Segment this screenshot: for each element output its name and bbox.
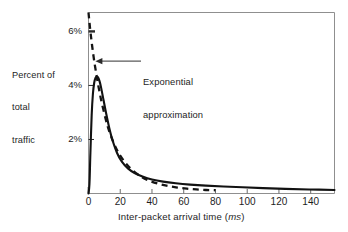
annotation-leader <box>95 58 141 64</box>
annotation-exponential-approximation: Exponential approximation <box>143 54 203 143</box>
figure-panel: Percent of total traffic 6% 4% 2% 020406… <box>0 0 348 232</box>
x-axis-label: Inter-packet arrival time (ms) <box>118 211 245 222</box>
x-tick-label-60: 60 <box>171 196 197 208</box>
series-measured-traffic <box>89 77 335 194</box>
x-tick-label-0: 0 <box>76 196 102 208</box>
y-axis-label: Percent of total traffic <box>12 48 86 167</box>
annotation-line-2: approximation <box>143 109 203 120</box>
x-tick-label-140: 140 <box>298 196 324 208</box>
x-tick-label-40: 40 <box>139 196 165 208</box>
y-axis-label-line-2: total <box>12 102 86 113</box>
x-tick-label-20: 20 <box>107 196 133 208</box>
x-axis-label-unit: ms <box>228 211 241 222</box>
annotation-line-1: Exponential <box>143 76 203 87</box>
x-axis-label-suffix: ) <box>241 211 244 222</box>
x-tick-label-100: 100 <box>234 196 260 208</box>
y-tick-label-6: 6% <box>58 25 82 36</box>
y-tick-label-4: 4% <box>58 79 82 90</box>
x-axis-label-prefix: Inter-packet arrival time ( <box>118 211 228 222</box>
x-tick-label-80: 80 <box>202 196 228 208</box>
x-tick-label-120: 120 <box>266 196 292 208</box>
y-tick-label-2: 2% <box>58 133 82 144</box>
data-series <box>89 13 335 194</box>
